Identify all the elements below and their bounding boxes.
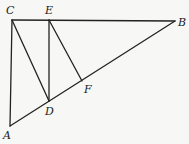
segment-cd <box>12 20 49 101</box>
segment-ac <box>10 20 12 126</box>
point-label-a: A <box>2 129 11 142</box>
segment-cb <box>12 20 175 21</box>
segment-ab <box>10 21 175 126</box>
point-label-f: F <box>83 83 92 96</box>
point-label-c: C <box>6 4 15 17</box>
point-label-e: E <box>44 4 53 17</box>
point-label-d: D <box>44 105 54 118</box>
segment-ef <box>49 20 82 81</box>
segments-group <box>10 20 175 126</box>
geometry-diagram: CEBADF <box>0 0 189 144</box>
diagram-canvas: CEBADF <box>0 0 189 144</box>
point-label-b: B <box>177 16 186 29</box>
